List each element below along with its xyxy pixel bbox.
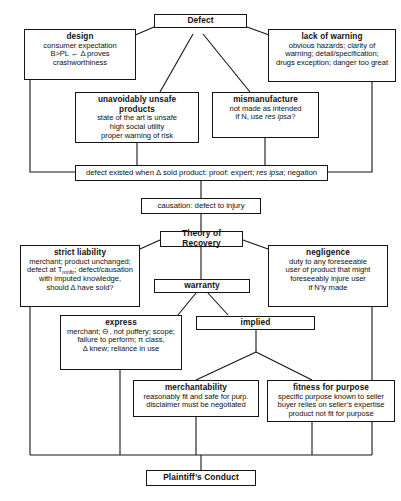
node-merchantability-line-2: disclaimer must be negotiated [137,401,255,410]
edge-defect-mismanufacture [203,34,250,92]
node-defect-existed-text: defect existed when Δ sold product: proo… [86,168,317,177]
edge-design-bar [30,80,75,172]
flowchart-canvas: Defect design consumer expectation B>PL … [0,0,401,501]
node-defect-existed[interactable]: defect existed when Δ sold product: proo… [75,165,328,181]
node-defect-header: Defect [187,16,213,26]
node-implied[interactable]: implied [196,316,315,330]
node-warranty[interactable]: warranty [154,279,250,293]
edge-defect-design [133,27,154,36]
node-mismanufacture[interactable]: mismanufacture not made as intended if N… [212,92,319,138]
edge-warranty-express [178,293,196,315]
node-merchantability[interactable]: merchantability reasonably fit and safe … [133,380,259,417]
edge-theory-strict [140,240,160,249]
node-fitness-for-purpose[interactable]: fitness for purpose specific purpose kno… [267,380,395,422]
node-lack-of-warning-line-3: drugs exception; danger too great [272,59,392,68]
node-negligence-line-4: if N'ly made [272,284,384,293]
node-mismanufacture-line-2: if N, use res ipsa? [216,113,315,122]
node-negligence[interactable]: negligence duty to any foreseeable user … [268,245,388,307]
edge-warranty-implied [208,293,228,315]
node-causation[interactable]: causation: defect to injury [141,198,261,214]
edge-theory-negligence [243,240,268,249]
node-plaintiffs-conduct[interactable]: Plaintiff’s Conduct [146,470,256,486]
node-causation-text: causation: defect to injury [157,201,244,210]
node-warranty-header: warranty [184,281,220,291]
edge-defect-unavoidable [160,34,193,92]
node-design[interactable]: design consumer expectation B>PL ← Δ pro… [24,29,136,80]
node-unavoidably-unsafe-line-3: proper warning of risk [79,132,195,141]
node-strict-liability[interactable]: strict liability merchant; product uncha… [20,245,140,307]
node-implied-header: implied [240,318,270,328]
edge-warning-bar [328,82,372,172]
node-defect[interactable]: Defect [154,14,247,28]
node-strict-liability-line-4: should Δ have sold? [24,284,136,293]
node-unavoidably-unsafe-products[interactable]: unavoidably unsafe products state of the… [75,92,199,143]
node-plaintiffs-conduct-header: Plaintiff’s Conduct [163,473,239,483]
node-lack-of-warning[interactable]: lack of warning obvious hazards; clarity… [268,29,396,82]
edge-implied-merchantability [196,352,256,380]
node-express[interactable]: express merchant; ⊖, not puffery; scope;… [60,315,182,370]
node-unavoidably-unsafe-header: unavoidably unsafe products [79,95,195,114]
node-express-line-3: Δ knew; reliance in use [64,345,178,354]
node-design-line-3: crashworthiness [28,59,132,68]
node-fitness-for-purpose-line-3: product not fit for purpose [271,410,391,419]
node-theory-of-recovery[interactable]: Theory of Recovery [160,231,243,247]
edge-implied-fitness [256,352,312,380]
node-theory-of-recovery-header: Theory of Recovery [167,229,236,249]
